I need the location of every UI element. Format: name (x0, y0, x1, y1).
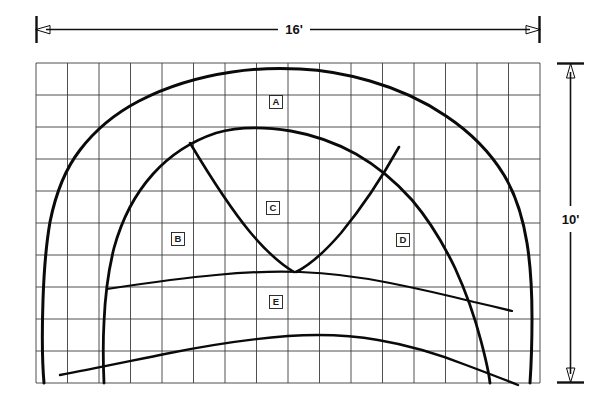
zone-label-text: C (270, 202, 277, 213)
zone-label-c: C (267, 202, 280, 215)
width-dimension-label: 16' (285, 22, 303, 37)
section-drawing-figure: 16' 10' ABCDE (0, 0, 605, 407)
zone-label-text: E (273, 296, 279, 307)
height-dimension-label: 10' (562, 212, 580, 227)
zone-label-b: B (172, 233, 185, 246)
zone-label-e: E (270, 296, 283, 309)
diagonal-right (296, 147, 399, 272)
zone-label-text: B (175, 233, 182, 244)
feature-lines (42, 68, 532, 385)
upper-floor-line (107, 272, 512, 311)
height-dimension: 10' (557, 64, 584, 383)
drawing-canvas: 16' 10' ABCDE (0, 0, 605, 407)
lower-floor-line (60, 335, 518, 385)
zone-label-d: D (397, 234, 410, 247)
zone-label-a: A (270, 96, 283, 109)
zone-label-text: D (400, 234, 407, 245)
width-dimension: 16' (36, 16, 540, 43)
zone-label-text: A (273, 96, 280, 107)
